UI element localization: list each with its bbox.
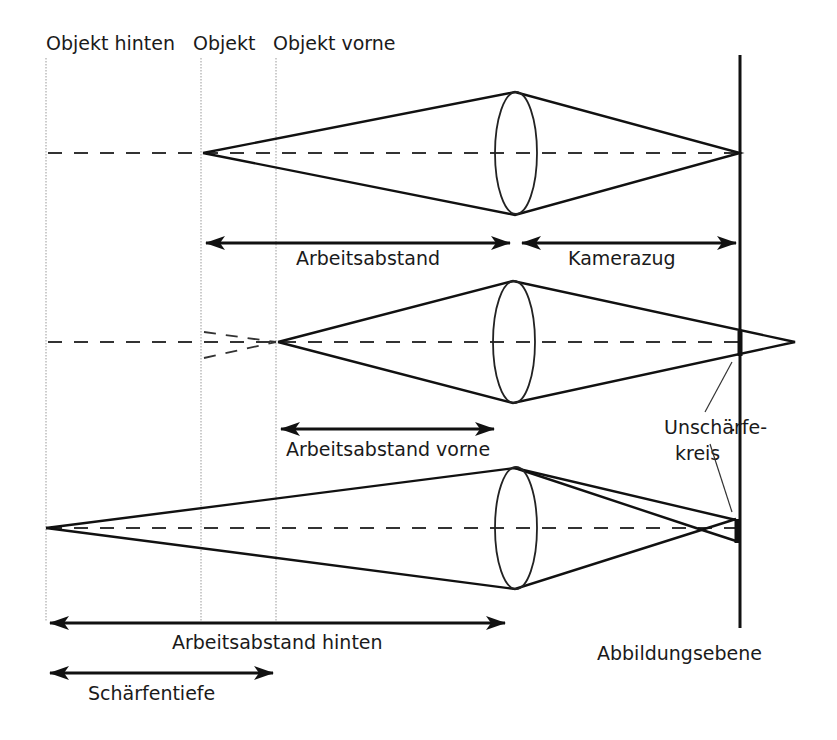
row-back-object	[46, 467, 738, 589]
label-working-distance-front: Arbeitsabstand vorne	[286, 438, 490, 460]
callout-line-back	[710, 444, 732, 512]
speck	[732, 429, 735, 432]
ray-upper-3b	[515, 468, 736, 541]
label-object-back: Objekt hinten	[46, 32, 175, 54]
label-working-distance-back: Arbeitsabstand hinten	[172, 631, 383, 653]
label-camera-extension: Kamerazug	[568, 247, 676, 269]
ray-lower-3	[46, 519, 736, 589]
depth-of-field-diagram: Objekt hinten Objekt Objekt vorne Arbeit…	[0, 0, 837, 740]
virtual-ray-upper	[204, 332, 276, 342]
label-object-front: Objekt vorne	[273, 32, 396, 54]
label-blur-circle-1: Unschärfe-	[664, 416, 767, 438]
label-object: Objekt	[193, 32, 255, 54]
row-in-focus	[48, 92, 740, 215]
label-depth-of-field: Schärfentiefe	[88, 682, 215, 704]
label-image-plane: Abbildungsebene	[597, 642, 762, 664]
ray-upper-3	[46, 468, 736, 528]
label-working-distance: Arbeitsabstand	[296, 247, 440, 269]
callout-line-front	[705, 362, 732, 412]
row-front-object	[48, 281, 795, 403]
ray-cone-2	[278, 281, 795, 403]
virtual-ray-lower	[204, 342, 276, 358]
